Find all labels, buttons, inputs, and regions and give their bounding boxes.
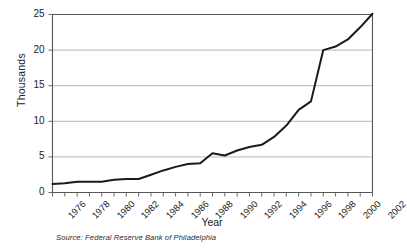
x-axis-title: Year	[52, 216, 372, 228]
gridlines	[53, 15, 373, 157]
y-tick-label: 5	[19, 150, 45, 161]
series-line	[53, 14, 373, 184]
y-tick-label: 15	[19, 79, 45, 90]
data-line-series	[53, 14, 373, 184]
source-caption: Source: Federal Reserve Bank of Philadel…	[56, 233, 216, 242]
y-tick-label: 20	[19, 44, 45, 55]
x-tick-label: 2002	[386, 199, 407, 221]
x-axis-ticks	[53, 193, 373, 197]
y-tick-label: 10	[19, 115, 45, 126]
axis-frame	[53, 15, 373, 193]
y-axis-ticks	[49, 15, 53, 193]
y-tick-label: 25	[19, 8, 45, 19]
y-tick-label: 0	[19, 186, 45, 197]
